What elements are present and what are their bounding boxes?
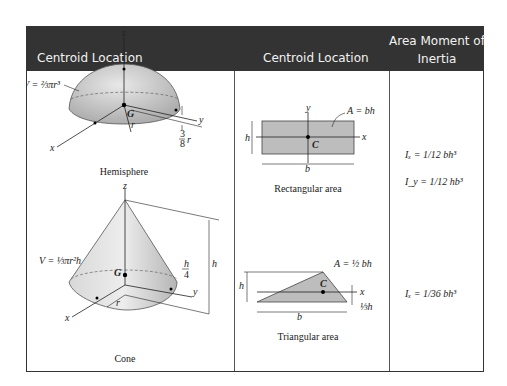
hemisphere-radius-label: r — [131, 119, 135, 130]
diagram-mark: r — [187, 134, 191, 145]
cone-caption: Cone — [114, 353, 136, 364]
rectangle-iy-formula: I_y = 1/12 hb³ — [404, 176, 464, 187]
cone-offset-num: h — [184, 258, 189, 269]
triangle-diagram: h b C x ⅓h A = ½ bh Triangular area — [239, 258, 373, 342]
rectangle-caption: Rectangular area — [274, 183, 342, 194]
cone-offset-den: 4 — [184, 269, 189, 280]
hemisphere-x-label: x — [49, 142, 55, 153]
diagram-mark — [306, 135, 310, 139]
rectangle-area-label: A = bh — [346, 105, 375, 116]
cone-radius-label: r — [116, 297, 120, 308]
cone-x-label: x — [64, 312, 70, 323]
diagram-mark — [94, 122, 97, 125]
cone-diagram: z x y G r h V = ⅓πr²h h 4 Cone — [39, 180, 219, 364]
cone-height-label: h — [212, 258, 217, 269]
diagram-mark: x — [361, 131, 367, 142]
cone-body — [69, 200, 177, 310]
diagram-canvas: z x y G r V = ⅔πr³ 3 8 r Hemisphere — [27, 27, 485, 373]
rectangle-ix-formula: Iₓ = 1/12 bh³ — [404, 149, 457, 160]
hemisphere-y-label: y — [198, 114, 204, 125]
cone-volume-label: V = ⅓πr²h — [39, 255, 81, 266]
centroid-dot — [122, 103, 126, 107]
diagram-mark — [175, 109, 178, 112]
triangle-shape — [257, 272, 347, 302]
diagram-mark — [125, 200, 219, 220]
diagram-mark: b — [305, 163, 310, 174]
triangle-offset-label: ⅓h — [360, 301, 373, 312]
cone-centroid-dot — [123, 273, 127, 277]
diagram-mark — [321, 290, 325, 294]
diagram-mark: h — [239, 280, 244, 291]
diagram-mark: b — [297, 311, 302, 322]
hemisphere-z-label: z — [121, 27, 126, 38]
hemisphere-centroid-label: G — [127, 108, 135, 119]
diagram-mark: h — [245, 132, 250, 143]
hemisphere-caption: Hemisphere — [100, 166, 149, 177]
triangle-area-label: A = ½ bh — [333, 258, 372, 269]
diagram-mark — [96, 297, 99, 300]
cone-y-label: y — [192, 286, 198, 297]
hemisphere-body — [69, 64, 180, 124]
cone-z-label: z — [122, 180, 127, 191]
cone-centroid-label: G — [114, 267, 122, 278]
diagram-mark: C — [312, 139, 319, 150]
hemisphere-volume-label: V = ⅔πr³ — [27, 79, 61, 90]
diagram-mark: x — [359, 286, 365, 297]
rectangle-diagram: y x C h b A = bh Rectangular area — [245, 102, 375, 194]
diagram-mark: C — [320, 278, 327, 289]
diagram-mark — [170, 288, 173, 291]
hemisphere-offset-den: 8 — [180, 138, 185, 149]
diagram-mark: y — [305, 102, 311, 113]
diagram-mark — [123, 68, 126, 71]
triangle-caption: Triangular area — [278, 331, 340, 342]
hemisphere-diagram: z x y G r V = ⅔πr³ 3 8 r Hemisphere — [27, 27, 204, 177]
properties-table: Centroid Location Centroid Location Area… — [26, 26, 484, 372]
triangle-ix-formula: Iₓ = 1/36 bh³ — [404, 288, 457, 299]
